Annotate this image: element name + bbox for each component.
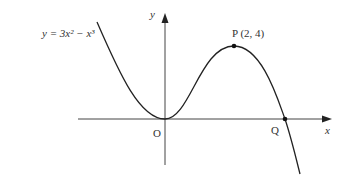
curve-equation-label: y = 3x² − x³ (42, 27, 95, 39)
point-p (232, 44, 237, 49)
point-q-label: Q (271, 124, 279, 136)
point-p-label: P (2, 4) (232, 27, 264, 39)
origin-label: O (153, 127, 161, 139)
x-axis-label: x (325, 124, 330, 136)
x-axis-arrow-icon (322, 116, 332, 123)
cubic-curve (97, 22, 300, 174)
y-axis-arrow-icon (162, 13, 169, 23)
y-axis-label: y (150, 8, 155, 20)
point-q (283, 117, 288, 122)
